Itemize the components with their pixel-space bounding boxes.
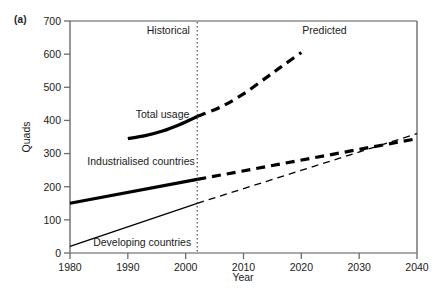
series-line-industrialised-countries-historical	[70, 179, 197, 203]
y-tick-label: 0	[55, 247, 61, 259]
x-tick-label: 1980	[58, 261, 82, 273]
y-tick-label: 300	[43, 147, 61, 159]
annotation-developing-countries: Developing countries	[93, 236, 191, 248]
y-axis-title: Quads	[20, 122, 32, 153]
y-tick-label: 400	[43, 114, 61, 126]
data-series-layer	[70, 52, 417, 246]
annotation-industrialised-countries: Industrialised countries	[87, 155, 194, 167]
annotation-layer: HistoricalPredictedTotal usageIndustrial…	[87, 24, 346, 247]
series-line-total-usage-historical	[128, 116, 197, 138]
y-tick-label: 700	[43, 15, 61, 27]
annotation-historical: Historical	[147, 24, 190, 36]
series-line-total-usage-predicted	[197, 52, 301, 116]
x-axis-ticks: 1980199020002010202020302040	[58, 253, 429, 273]
x-tick-label: 1990	[116, 261, 140, 273]
x-tick-label: 2000	[174, 261, 198, 273]
figure-container: (a) 0100200300400500600700 1980199020002…	[0, 0, 448, 300]
plot-frame	[70, 21, 417, 253]
y-axis-ticks: 0100200300400500600700	[43, 15, 70, 259]
x-tick-label: 2040	[405, 261, 429, 273]
annotation-total-usage: Total usage	[136, 108, 190, 120]
y-tick-label: 500	[43, 81, 61, 93]
series-line-developing-countries-predicted	[197, 134, 417, 204]
energy-usage-line-chart: 0100200300400500600700 19801990200020102…	[0, 0, 448, 300]
y-tick-label: 600	[43, 48, 61, 60]
x-axis-title: Year	[232, 271, 254, 283]
y-tick-label: 100	[43, 214, 61, 226]
x-tick-label: 2030	[347, 261, 371, 273]
x-tick-label: 2020	[290, 261, 314, 273]
y-tick-label: 200	[43, 181, 61, 193]
annotation-predicted: Predicted	[302, 24, 347, 36]
